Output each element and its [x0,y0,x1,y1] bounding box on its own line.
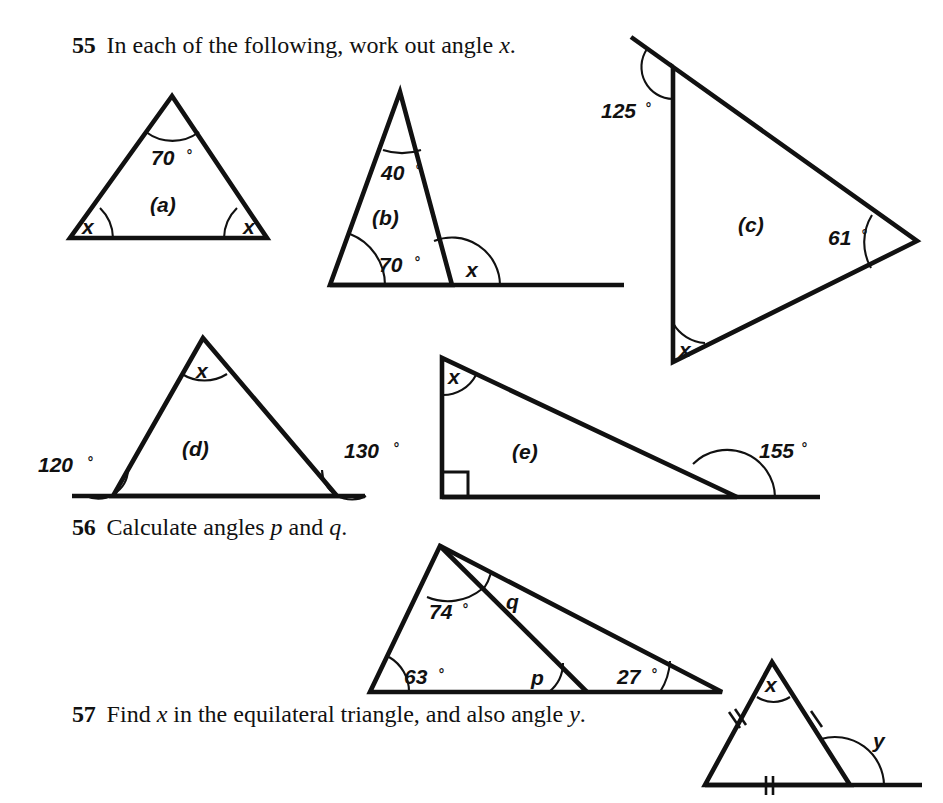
label-e-exterior-angle: 155 [759,439,794,462]
label-a-apex-angle: 70 [151,146,175,169]
degree-symbol-q56-74: ° [462,601,468,617]
angle-arc-d-exterior-right [322,470,366,499]
degree-symbol-q56-27: ° [651,666,657,682]
degree-symbol-b-apex: ° [415,162,421,178]
cevian-q56 [440,546,587,692]
question-57-variable-x: x [157,701,168,727]
question-55-text-before: In each of the following, work out angle [107,32,500,58]
label-e-top-angle: x [447,365,461,388]
worksheet-page: 55In each of the following, work out ang… [0,0,943,803]
angle-arc-q57-apex [757,697,790,702]
part-label-e: (e) [512,440,538,463]
label-a-base-left: x [81,215,95,238]
question-57-number: 57 [72,701,96,727]
label-b-base-left-angle: 70 [379,253,403,276]
part-label-b: (b) [372,206,399,229]
label-c-exterior-angle: 125 [601,99,636,122]
angle-arc-c-exterior [641,49,673,99]
angle-arc-b-exterior [434,237,500,285]
triangle-e-outline [442,358,737,497]
question-57-text-after: . [580,701,586,727]
triangle-d-outline [113,338,337,496]
label-d-apex-angle: x [195,359,209,382]
angle-arc-q57-exterior [821,737,884,785]
angle-arc-e-top [442,375,476,395]
label-d-exterior-right: 130 [344,439,379,462]
part-label-d: (d) [182,437,209,460]
figure-q56: 74 ° q 63 ° p 27 ° [370,546,722,692]
angle-arc-a-apex [146,132,199,141]
question-56-text-after: . [341,514,347,540]
label-b-apex-angle: 40 [380,161,405,184]
question-57-text-mid: in the equilateral triangle, and also an… [167,701,569,727]
part-label-a: (a) [150,193,176,216]
angle-arc-a-base-right [224,208,237,238]
angle-arc-b-apex [383,150,421,153]
triangle-q57-outline [705,662,850,785]
angle-arc-c-right [864,215,872,268]
question-56-text-before: Calculate angles [107,514,271,540]
label-q56-74: 74 [429,600,453,623]
figure-d: x 120 ° 130 ° (d) [38,338,399,499]
figure-b: 40 ° 70 ° x (b) [330,92,624,285]
degree-symbol-b-base-left: ° [414,254,420,270]
ray-c-extension [631,37,673,67]
label-q57-apex-angle: x [764,673,778,696]
figure-e: x 155 ° (e) [442,358,820,497]
question-57-text-before: Find [107,701,157,727]
angle-arc-q56-63 [389,657,409,692]
tick-marks-right-side [805,711,822,730]
tick-marks-base [766,776,773,795]
degree-symbol-c-right: ° [861,227,867,243]
triangle-q56-outline [370,546,722,692]
figure-a: 70 ° x x (a) [70,96,267,238]
degree-symbol-c-exterior: ° [645,100,651,116]
right-angle-marker-e [442,472,468,497]
degree-symbol-e-exterior: ° [801,440,807,456]
angle-arc-q56-74 [427,589,482,601]
angle-arc-q56-q [483,573,491,590]
question-56-number: 56 [72,514,96,540]
label-q56-q: q [506,590,519,613]
label-q56-p: p [530,666,544,689]
label-b-exterior-angle: x [465,258,479,281]
angle-arc-a-base-left [100,208,113,238]
part-label-c: (c) [738,213,764,236]
label-q56-63: 63 [404,665,428,688]
angle-arc-q56-27 [660,661,670,692]
angle-arc-d-apex [182,374,227,381]
label-a-base-right: x [242,215,256,238]
triangle-a-outline [70,96,267,238]
triangle-c-outline [673,67,917,362]
label-c-bottom-angle: x [678,338,692,361]
question-57-prompt: 57Find x in the equilateral triangle, an… [72,702,586,726]
figure-c: 125 ° 61 ° x (c) [601,37,917,362]
triangle-b-outline [330,92,452,285]
question-55-variable: x [499,32,510,58]
tick-marks-left-side [729,709,746,728]
label-d-exterior-left: 120 [38,453,73,476]
angle-arc-d-exterior-left [86,470,128,499]
question-57-variable-y: y [569,701,580,727]
question-56-prompt: 56Calculate angles p and q. [72,515,347,539]
degree-symbol-q56-63: ° [438,666,444,682]
angle-arc-b-base-left [350,234,385,285]
degree-symbol-d-left: ° [87,454,93,470]
degree-symbol-d-right: ° [393,440,399,456]
angle-arc-q56-p [549,663,563,692]
figure-layer: 70 ° x x (a) 40 ° 70 ° x (b) [0,0,943,803]
question-55-text-after: . [510,32,516,58]
label-q57-exterior-angle: y [872,729,886,752]
angle-arc-e-exterior [693,450,775,497]
question-56-variable-q: q [329,514,341,540]
question-56-text-mid: and [283,514,330,540]
question-55-prompt: 55In each of the following, work out ang… [72,33,516,57]
degree-symbol-a-apex: ° [186,147,192,163]
question-55-number: 55 [72,32,96,58]
question-56-variable-p: p [271,514,283,540]
label-q56-27: 27 [616,665,642,688]
label-c-right-angle: 61 [828,226,851,249]
figure-q57: x y [705,662,922,795]
angle-arc-c-bottom [673,323,705,343]
